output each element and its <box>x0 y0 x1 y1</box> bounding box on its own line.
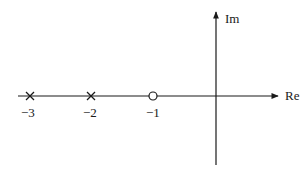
zero-marker-minus-1 <box>149 92 157 100</box>
pole-label-minus-3: −3 <box>21 105 35 120</box>
zero-label-minus-1: −1 <box>146 105 160 120</box>
imaginary-axis-label: Im <box>225 11 239 26</box>
pole-label-minus-2: −2 <box>83 105 97 120</box>
real-axis-label: Re <box>285 88 300 103</box>
pole-zero-plot: Re Im −3 −2 −1 <box>0 0 308 174</box>
